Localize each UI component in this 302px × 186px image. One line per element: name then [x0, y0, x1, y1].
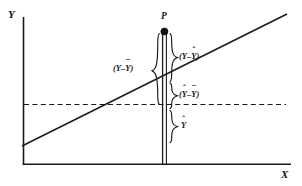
- annotation-explained-deviation: (ˆY–¯Y): [179, 90, 199, 99]
- total-deviation-term1-base: Y: [116, 63, 121, 73]
- y-axis-label: Y: [8, 9, 15, 20]
- point-p-marker: [161, 28, 168, 35]
- sample-regression-line: [22, 14, 287, 146]
- brace-fitted-value: [170, 111, 177, 143]
- brace-residual: [170, 34, 177, 82]
- annotation-fitted-value: ˆY: [181, 121, 186, 130]
- fitted-value-term1: ˆY: [181, 121, 186, 130]
- total-deviation-term2-accent: ¯: [125, 60, 130, 68]
- total-deviation-term1: Y: [116, 64, 121, 73]
- annotation-residual: (Y–ˆY): [179, 52, 199, 61]
- residual-term1: Y: [182, 52, 187, 61]
- residual-term1-base: Y: [182, 51, 187, 61]
- explained-deviation-term2: ¯Y: [191, 90, 196, 99]
- residual-term2: ˆY: [191, 52, 196, 61]
- total-deviation-term2: ¯Y: [125, 64, 130, 73]
- explained-deviation-term2-accent: ¯: [191, 86, 196, 94]
- fitted-value-term1-accent: ˆ: [181, 116, 186, 124]
- explained-deviation-term1-accent: ˆ: [182, 85, 187, 93]
- residual-term2-accent: ˆ: [191, 47, 196, 55]
- explained-deviation-term1: ˆY: [182, 90, 187, 99]
- point-p-label: P: [161, 12, 167, 22]
- x-axis-label: X: [281, 169, 288, 180]
- annotation-total-deviation: (Y–¯Y): [113, 64, 133, 73]
- brace-total-deviation: [152, 34, 159, 105]
- figure-canvas: [0, 0, 302, 186]
- regression-decomposition-figure: Y X P (Y–ˆY) (Y–¯Y) (ˆY–¯Y) ˆY: [0, 0, 302, 186]
